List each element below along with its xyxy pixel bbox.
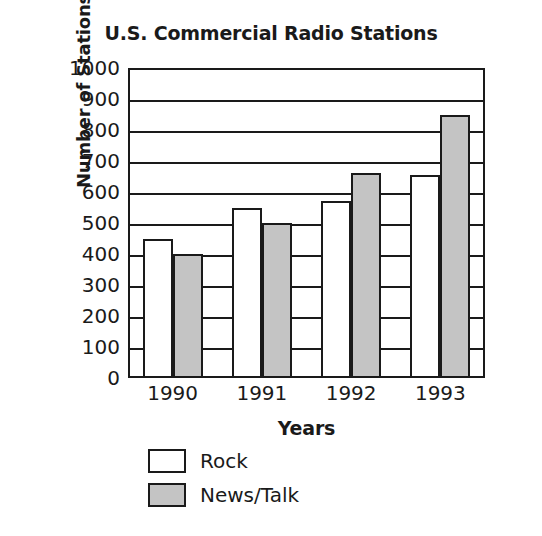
bars-container xyxy=(128,68,485,378)
y-axis-tick-labels: 10009008007006005004003002001000 xyxy=(0,0,122,536)
x-axis-tick-label: 1990 xyxy=(128,383,217,403)
y-axis-tick-label: 800 xyxy=(0,120,120,140)
legend-swatch-icon xyxy=(148,449,186,473)
y-axis-tick-label: 200 xyxy=(0,306,120,326)
x-axis-tick-label: 1992 xyxy=(307,383,396,403)
bar-news-talk-1990 xyxy=(173,254,203,378)
y-axis-tick-label: 700 xyxy=(0,151,120,171)
x-axis-tick-label: 1991 xyxy=(217,383,306,403)
y-axis-tick-label: 100 xyxy=(0,337,120,357)
y-axis-tick-label: 300 xyxy=(0,275,120,295)
y-axis-tick-label: 600 xyxy=(0,182,120,202)
bar-news-talk-1991 xyxy=(262,223,292,378)
x-axis-tick-label: 1993 xyxy=(396,383,485,403)
bar-rock-1993 xyxy=(410,175,440,378)
x-axis-tick-labels: 1990199119921993 xyxy=(128,383,485,411)
chart-legend: RockNews/Talk xyxy=(148,444,428,512)
bar-rock-1990 xyxy=(143,239,173,379)
chart-figure: U.S. Commercial Radio Stations Number of… xyxy=(0,0,542,536)
bar-rock-1992 xyxy=(321,201,351,378)
bar-news-talk-1993 xyxy=(440,115,470,379)
legend-item-news-talk: News/Talk xyxy=(148,478,428,512)
bar-news-talk-1992 xyxy=(351,173,381,378)
legend-label: News/Talk xyxy=(200,485,299,505)
y-axis-tick-label: 0 xyxy=(0,368,120,388)
y-axis-tick-label: 500 xyxy=(0,213,120,233)
y-axis-tick-label: 400 xyxy=(0,244,120,264)
y-axis-tick-label: 1000 xyxy=(0,58,120,78)
legend-item-rock: Rock xyxy=(148,444,428,478)
y-axis-tick-label: 900 xyxy=(0,89,120,109)
legend-label: Rock xyxy=(200,451,248,471)
x-axis-title: Years xyxy=(128,417,485,439)
bar-rock-1991 xyxy=(232,208,262,379)
legend-swatch-icon xyxy=(148,483,186,507)
